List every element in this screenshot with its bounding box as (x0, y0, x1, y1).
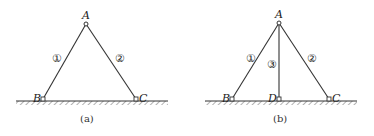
point-label-B-b: B (222, 93, 230, 104)
member-label-2-a: ② (115, 53, 125, 64)
member-2-b (279, 23, 329, 99)
caption-b: (b) (273, 114, 287, 124)
point-label-A-b: A (275, 9, 283, 20)
support-D-b (277, 97, 281, 101)
member-1-a (43, 24, 86, 99)
truss-diagrams (0, 0, 374, 136)
member-2-a (86, 24, 136, 99)
hinge-A-a (84, 22, 88, 26)
member-label-1-b: ① (246, 53, 256, 64)
member-label-3-b: ③ (267, 59, 277, 70)
support-B-a (41, 97, 45, 101)
hinge-A-b (277, 21, 281, 25)
point-label-B-a: B (33, 93, 41, 104)
support-C-b (327, 97, 331, 101)
caption-a: (a) (80, 114, 94, 124)
member-label-2-b: ② (307, 53, 317, 64)
support-C-a (134, 97, 138, 101)
member-label-1-a: ① (52, 53, 62, 64)
point-label-A-a: A (82, 10, 90, 21)
point-label-C-b: C (332, 93, 340, 104)
point-label-C-a: C (139, 93, 147, 104)
point-label-D-b: D (268, 93, 277, 104)
support-B-b (230, 97, 234, 101)
